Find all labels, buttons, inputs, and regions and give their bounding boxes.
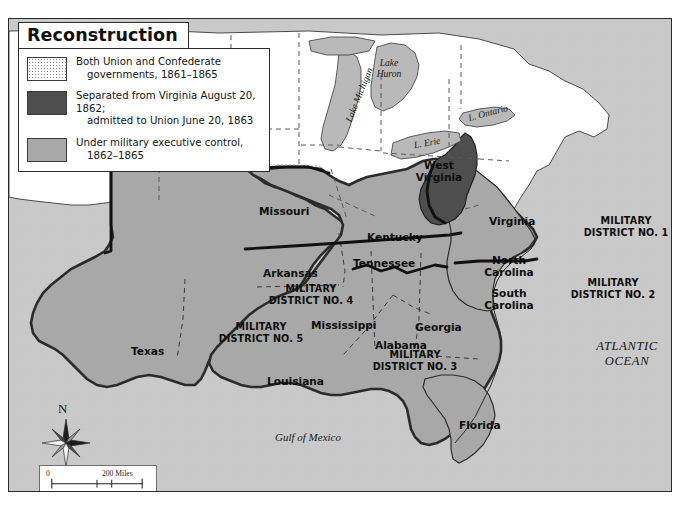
district-2-line2: DISTRICT NO. 2 xyxy=(571,289,656,300)
district-5-line1: MILITARY xyxy=(235,321,286,332)
district-1-line2: DISTRICT NO. 1 xyxy=(584,227,669,238)
legend-item-military-control: Under military executive control, 1862–1… xyxy=(27,137,263,162)
label-military-district-2: MILITARY DISTRICT NO. 2 xyxy=(557,277,669,300)
map-title-box: Reconstruction xyxy=(18,22,189,48)
legend-swatch-dark xyxy=(27,91,67,115)
legend-label-west-virginia: Separated from Virginia August 20, 1862;… xyxy=(76,90,263,128)
label-state-west-virginia-text: West Virginia xyxy=(416,159,462,183)
page-title: Reconstruction xyxy=(27,25,178,45)
label-military-district-5: MILITARY DISTRICT NO. 5 xyxy=(205,321,317,344)
district-3-line2: DISTRICT NO. 3 xyxy=(373,361,458,372)
label-state-kentucky: Kentucky xyxy=(367,231,423,243)
legend-2-line2: admitted to Union June 20, 1863 xyxy=(76,115,263,128)
label-state-georgia: Georgia xyxy=(415,321,462,333)
label-lake-huron-line1: Lake xyxy=(380,57,399,68)
legend-swatch-mid xyxy=(27,138,67,162)
legend-1-line2: governments, 1861–1865 xyxy=(76,69,221,82)
legend-label-both-governments: Both Union and Confederate governments, … xyxy=(76,56,221,81)
atlantic-line2: OCEAN xyxy=(605,354,649,368)
district-4-line1: MILITARY xyxy=(285,283,336,294)
scale-kms-zero: 0 xyxy=(46,491,50,492)
scale-kms-label: 200 Kms xyxy=(82,491,110,492)
district-5-line2: DISTRICT NO. 5 xyxy=(219,333,304,344)
label-lake-huron: Lake Huron xyxy=(365,57,413,79)
label-atlantic-ocean: ATLANTIC OCEAN xyxy=(581,339,672,369)
legend-label-military-control: Under military executive control, 1862–1… xyxy=(76,137,243,162)
compass-north-label: N xyxy=(58,401,67,417)
label-military-district-1: MILITARY DISTRICT NO. 1 xyxy=(571,215,672,238)
label-military-district-4: MILITARY DISTRICT NO. 4 xyxy=(255,283,367,306)
label-military-district-3: MILITARY DISTRICT NO. 3 xyxy=(359,349,471,372)
label-state-north-carolina: North Carolina xyxy=(477,254,541,278)
label-state-texas: Texas xyxy=(131,345,164,357)
scale-miles-label: 200 Miles xyxy=(102,469,133,478)
legend-item-west-virginia: Separated from Virginia August 20, 1862;… xyxy=(27,90,263,128)
label-state-mississippi: Mississippi xyxy=(311,319,376,331)
atlantic-line1: ATLANTIC xyxy=(596,339,658,353)
label-state-arkansas: Arkansas xyxy=(263,267,318,279)
legend-3-line2: 1862–1865 xyxy=(76,150,243,163)
label-state-tennessee: Tennessee xyxy=(353,257,415,269)
label-lake-huron-line2: Huron xyxy=(377,68,402,79)
legend-swatch-stipple xyxy=(27,57,67,81)
district-3-line1: MILITARY xyxy=(389,349,440,360)
label-state-florida: Florida xyxy=(459,419,501,431)
legend-2-line1: Separated from Virginia August 20, 1862; xyxy=(76,90,256,114)
label-state-west-virginia: West Virginia xyxy=(411,159,467,183)
legend-3-line1: Under military executive control, xyxy=(76,137,243,148)
legend-item-both-governments: Both Union and Confederate governments, … xyxy=(27,56,263,81)
legend-1-line1: Both Union and Confederate xyxy=(76,56,221,67)
label-state-missouri: Missouri xyxy=(259,205,309,217)
map-legend: Both Union and Confederate governments, … xyxy=(18,48,270,172)
label-state-south-carolina: South Carolina xyxy=(477,287,541,311)
district-4-line2: DISTRICT NO. 4 xyxy=(269,295,354,306)
scale-bar: 0 200 Miles 0 200 Kms xyxy=(39,465,157,492)
reconstruction-map: Lake Michigan Lake Huron L. Erie L. Onta… xyxy=(0,0,694,517)
scale-miles-zero: 0 xyxy=(46,469,50,478)
district-1-line1: MILITARY xyxy=(600,215,651,226)
label-gulf-of-mexico: Gulf of Mexico xyxy=(275,431,341,443)
district-2-line1: MILITARY xyxy=(587,277,638,288)
label-state-louisiana: Louisiana xyxy=(267,375,324,387)
scale-bar-graphic xyxy=(40,466,156,492)
compass-rose: N xyxy=(37,403,95,469)
label-state-virginia: Virginia xyxy=(489,215,535,227)
